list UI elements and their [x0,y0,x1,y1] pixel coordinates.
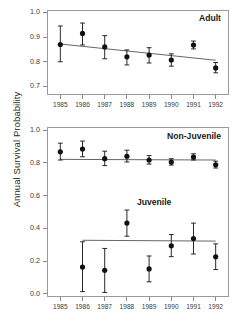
data-marker [191,154,196,159]
plot-canvas-bottom [47,127,229,297]
data-marker [146,52,151,57]
y-tick-label: 0.8 [13,57,40,66]
data-marker [213,162,218,167]
x-tick-mark [215,297,216,301]
x-tick-mark [171,95,172,99]
non-juvenile-datapoint [58,143,63,160]
x-tick-mark [149,297,150,301]
data-marker [80,264,85,269]
data-marker [58,42,63,47]
y-tick-mark [43,162,47,163]
y-tick-label: 1.0 [13,125,40,134]
figure-container: Annual Survival Probability Adult 0.70.8… [0,0,236,328]
data-marker [169,159,174,164]
panel-juvenile-nonjuvenile: Non-Juvenile Juvenile [47,127,229,297]
data-marker [146,266,151,271]
data-marker [124,154,129,159]
data-marker [80,31,85,36]
y-tick-mark [43,130,47,131]
data-marker [102,156,107,161]
panel-adult: Adult [47,10,229,95]
x-tick-mark [126,95,127,99]
y-tick-label: 0.9 [13,32,40,41]
x-tick-mark [149,95,150,99]
juvenile-datapoint [169,235,174,257]
data-marker [102,44,107,49]
y-tick-label: 0.8 [13,158,40,167]
non-juvenile-datapoint [213,161,218,168]
x-tick-mark [82,95,83,99]
panel-title-juvenile: Juvenile [137,197,171,207]
y-tick-label: 0.4 [13,223,40,232]
x-tick-mark [60,297,61,301]
data-marker [191,236,196,241]
juvenile-datapoint [191,223,196,254]
x-tick-label: 1992 [203,101,229,108]
x-tick-mark [215,95,216,99]
juvenile-datapoint [102,248,107,292]
y-tick-label: 0.7 [13,81,40,90]
adult-datapoint [80,23,85,45]
juvenile-datapoint [80,242,85,292]
data-marker [80,146,85,151]
data-marker [169,243,174,248]
data-marker [213,65,218,70]
data-marker [124,221,129,226]
non-juvenile-datapoint [124,150,129,162]
y-tick-mark [43,195,47,196]
y-tick-label: 0.6 [13,191,40,200]
x-tick-mark [171,297,172,301]
non-juvenile-datapoint [102,151,107,165]
x-tick-label: 1992 [203,303,229,310]
juvenile-datapoint [146,256,151,282]
y-tick-mark [43,61,47,62]
x-tick-mark [193,95,194,99]
adult-datapoint [58,26,63,62]
data-marker [124,54,129,59]
x-tick-mark [60,95,61,99]
non-juvenile-datapoint [191,154,196,160]
y-tick-label: 1.0 [13,7,40,16]
data-marker [58,149,63,154]
x-tick-mark [193,297,194,301]
y-tick-label: 0.0 [13,289,40,298]
y-tick-label: 0.2 [13,256,40,265]
adult-datapoint [124,50,129,65]
y-tick-mark [43,86,47,87]
juvenile-trend-line [83,240,216,241]
adult-datapoint [102,36,107,59]
y-tick-mark [43,228,47,229]
data-marker [169,57,174,62]
adult-datapoint [146,48,151,63]
non-juvenile-datapoint [80,141,85,157]
data-marker [213,254,218,259]
panel-title-non-juvenile: Non-Juvenile [167,131,221,141]
data-marker [146,157,151,162]
data-marker [191,42,196,47]
y-tick-mark [43,293,47,294]
x-tick-mark [82,297,83,301]
juvenile-datapoint [124,210,129,236]
x-tick-mark [104,297,105,301]
y-axis-label: Annual Survival Probability [11,50,22,250]
data-marker [102,268,107,273]
x-tick-mark [104,95,105,99]
x-tick-mark [126,297,127,301]
adult-datapoint [191,41,196,49]
y-tick-mark [43,12,47,13]
y-tick-mark [43,37,47,38]
y-tick-mark [43,261,47,262]
adult-datapoint [213,62,218,72]
juvenile-datapoint [213,244,218,270]
non-juvenile-datapoint [146,156,151,165]
panel-title-adult: Adult [199,13,221,23]
